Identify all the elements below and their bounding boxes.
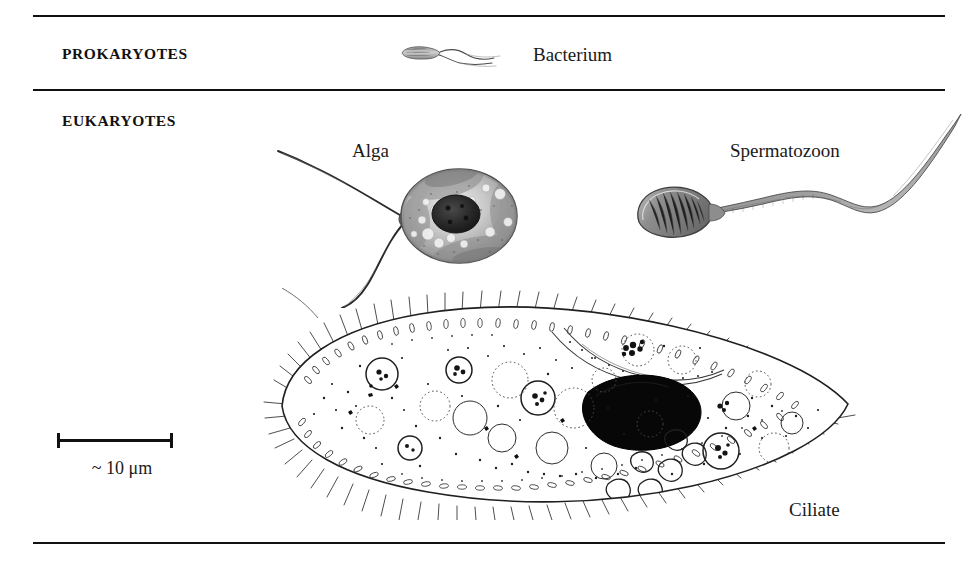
- scale-bar-line: [57, 439, 173, 442]
- scale-bar-cap-right: [170, 433, 173, 448]
- cell-size-comparison-figure: PROKARYOTES EUKARYOTES Bacterium: [0, 0, 977, 562]
- horizontal-rule-bottom: [33, 542, 945, 544]
- group-label-eukaryotes: EUKARYOTES: [62, 112, 176, 130]
- bacterium-illustration: [396, 36, 516, 76]
- organism-label-spermatozoon: Spermatozoon: [730, 140, 840, 162]
- horizontal-rule-middle: [33, 89, 945, 91]
- alga-illustration: [276, 148, 546, 308]
- horizontal-rule-top: [33, 15, 945, 17]
- scale-bar-label: ~ 10 μm: [57, 458, 187, 479]
- organism-label-alga: Alga: [352, 140, 389, 162]
- group-label-prokaryotes: PROKARYOTES: [62, 45, 188, 63]
- organism-label-bacterium: Bacterium: [533, 44, 612, 66]
- scale-bar: [57, 432, 173, 450]
- scale-bar-cap-left: [57, 433, 60, 448]
- spermatozoon-illustration: [625, 100, 977, 245]
- ciliate-illustration: [252, 288, 872, 520]
- organism-label-ciliate: Ciliate: [789, 499, 840, 521]
